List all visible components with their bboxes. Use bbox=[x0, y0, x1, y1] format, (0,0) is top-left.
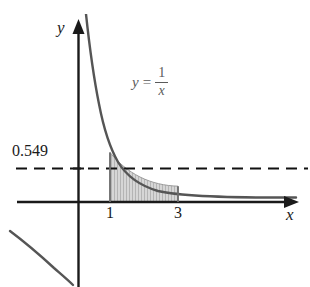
x-tick-label-3: 3 bbox=[169, 204, 187, 222]
equation-equals-sign: = bbox=[143, 74, 151, 91]
shaded-area-region bbox=[110, 152, 178, 202]
curve-one-over-x-negative-branch bbox=[10, 231, 73, 285]
x-tick-label-1: 1 bbox=[101, 204, 119, 222]
curve-equation-label: y = 1 x bbox=[132, 66, 168, 98]
equation-numerator: 1 bbox=[155, 66, 168, 81]
y-value-label-0549: 0.549 bbox=[12, 142, 48, 160]
figure-canvas: y x 1 3 0.549 y = 1 x bbox=[0, 0, 310, 287]
x-axis-label: x bbox=[286, 205, 294, 225]
y-axis-arrowhead bbox=[73, 19, 85, 34]
equation-denominator: x bbox=[156, 84, 168, 99]
y-axis-label: y bbox=[57, 18, 65, 38]
equation-fraction: 1 x bbox=[155, 66, 168, 98]
equation-lhs: y bbox=[132, 74, 139, 91]
